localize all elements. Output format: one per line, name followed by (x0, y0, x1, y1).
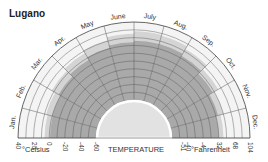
month-label: Feb. (15, 83, 27, 99)
fahrenheit-axis-label: °Fahrenheit (191, 145, 230, 154)
celsius-tick-label: -20 (62, 142, 69, 152)
celsius-tick-label: -40 (78, 142, 85, 152)
polar-temperature-chart: Jan.Feb.Mar.Apr.MayJuneJulyAug.Sep.Oct.N… (0, 0, 268, 162)
month-label: Jan. (8, 115, 17, 129)
month-label: July (143, 12, 157, 22)
celsius-axis-label: °Celsius (22, 145, 50, 154)
fahrenheit-tick-label: 68 (232, 142, 239, 150)
month-label: June (110, 12, 126, 21)
month-label: Nov. (241, 83, 253, 99)
fahrenheit-tick-label: 104 (247, 142, 254, 153)
x-axis-label: TEMPERATURE (108, 145, 164, 154)
celsius-tick-label: -60 (93, 142, 100, 152)
month-label: Dec. (251, 114, 260, 129)
